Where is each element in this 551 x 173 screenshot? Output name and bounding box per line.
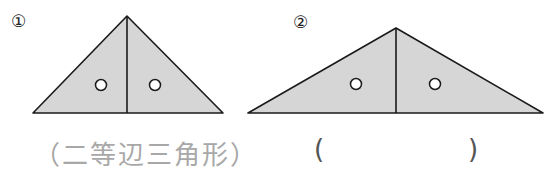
figure-2-answer-close[interactable]: ) bbox=[468, 134, 478, 164]
figure-2-answer-open[interactable]: ( bbox=[314, 134, 324, 164]
triangle-2 bbox=[248, 28, 543, 113]
equal-mark-icon bbox=[351, 79, 362, 90]
figure-1-answer: （二等辺三角形） bbox=[34, 134, 258, 171]
equal-mark-icon bbox=[96, 80, 107, 91]
triangle-1 bbox=[33, 16, 223, 113]
equal-mark-icon bbox=[150, 80, 161, 91]
equal-mark-icon bbox=[430, 79, 441, 90]
